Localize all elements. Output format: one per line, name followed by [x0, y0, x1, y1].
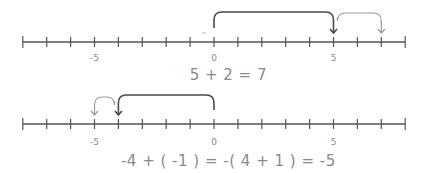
equation-top: 5 + 2 = 7	[190, 66, 267, 84]
number-line-diagram: -505 -505	[0, 0, 427, 173]
tick-label: 0	[211, 137, 217, 147]
tick-label: 0	[211, 53, 217, 63]
tick-label: -5	[90, 137, 99, 147]
number-line-top: -505	[23, 12, 405, 63]
jump-arc	[214, 12, 334, 33]
tick-label: 5	[331, 53, 337, 63]
jump-arc	[118, 95, 214, 115]
number-line-bottom: -505	[23, 95, 405, 147]
tick-label: -5	[90, 53, 99, 63]
equation-bottom: -4 + ( -1 ) = -( 4 + 1 ) = -5	[121, 152, 336, 170]
jump-arc	[338, 13, 382, 33]
tick-label: 5	[331, 137, 337, 147]
